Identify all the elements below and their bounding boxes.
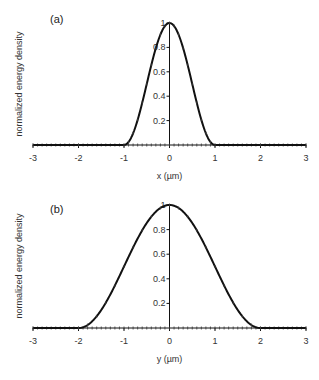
x-tick-label: -2 bbox=[74, 153, 82, 163]
x-tick-label: -1 bbox=[120, 336, 128, 346]
panel-label: (a) bbox=[50, 13, 63, 25]
x-tick-label: -3 bbox=[29, 336, 37, 346]
y-tick-label: 0.4 bbox=[153, 91, 166, 101]
x-tick-label: 1 bbox=[212, 153, 217, 163]
x-axis-title: y (µm) bbox=[157, 354, 183, 364]
figure: (a)normalized energy density-3-2-101230.… bbox=[0, 0, 319, 380]
y-tick-label: 0.6 bbox=[153, 67, 166, 77]
y-tick-label: 0.2 bbox=[153, 116, 166, 126]
y-tick-label: 0.8 bbox=[153, 225, 166, 235]
x-tick-label: 2 bbox=[258, 336, 263, 346]
chart-panel-a: (a)normalized energy density-3-2-101230.… bbox=[14, 13, 309, 181]
x-tick-label: 2 bbox=[258, 153, 263, 163]
x-tick-label: 0 bbox=[167, 336, 172, 346]
y-tick-label: 0.4 bbox=[153, 274, 166, 284]
x-tick-label: -1 bbox=[120, 153, 128, 163]
y-tick-label: 0.6 bbox=[153, 249, 166, 259]
y-tick-label: 0.2 bbox=[153, 298, 166, 308]
x-tick-label: 1 bbox=[212, 336, 217, 346]
y-axis-title: normalized energy density bbox=[14, 213, 24, 319]
x-axis-title: x (µm) bbox=[157, 171, 183, 181]
x-tick-label: -3 bbox=[29, 153, 37, 163]
chart-panel-b: (b)normalized energy density-3-2-101230.… bbox=[14, 200, 309, 364]
x-tick-label: 3 bbox=[303, 153, 308, 163]
y-axis-title: normalized energy density bbox=[14, 31, 24, 137]
x-tick-label: 3 bbox=[303, 336, 308, 346]
x-tick-label: 0 bbox=[167, 153, 172, 163]
panel-label: (b) bbox=[50, 203, 63, 215]
x-tick-label: -2 bbox=[74, 336, 82, 346]
